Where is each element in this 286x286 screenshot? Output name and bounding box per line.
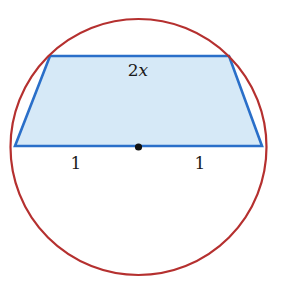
top-side-coefficient: 2 (128, 60, 139, 80)
top-side-label: 2x (128, 62, 148, 79)
diagram-canvas: 2x 1 1 (0, 0, 286, 286)
right-half-base-label: 1 (195, 155, 206, 172)
center-point (135, 143, 142, 150)
left-half-base-label: 1 (71, 155, 82, 172)
top-side-variable: x (139, 60, 149, 80)
diagram-svg (0, 0, 286, 286)
